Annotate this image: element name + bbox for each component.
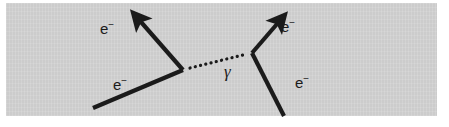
electron-in-left-line [93, 70, 183, 108]
electron-charge-superscript: − [303, 73, 309, 84]
electron-charge-superscript: − [108, 19, 114, 30]
photon-exchange-line [190, 54, 247, 68]
electron-in-right-line [252, 53, 284, 116]
electron-out-right-line [252, 24, 277, 53]
electron-out-left-line [141, 22, 183, 70]
electron-out-right-label: e− [281, 18, 295, 34]
photon-gamma-label: γ [224, 63, 231, 80]
electron-in-right-label: e− [295, 74, 309, 90]
electron-out-left-label: e− [100, 20, 114, 36]
figure-root: e− e− e− e− γ [0, 0, 449, 127]
electron-charge-superscript: − [289, 17, 295, 28]
electron-in-left-label: e− [113, 76, 127, 92]
electron-charge-superscript: − [121, 75, 127, 86]
